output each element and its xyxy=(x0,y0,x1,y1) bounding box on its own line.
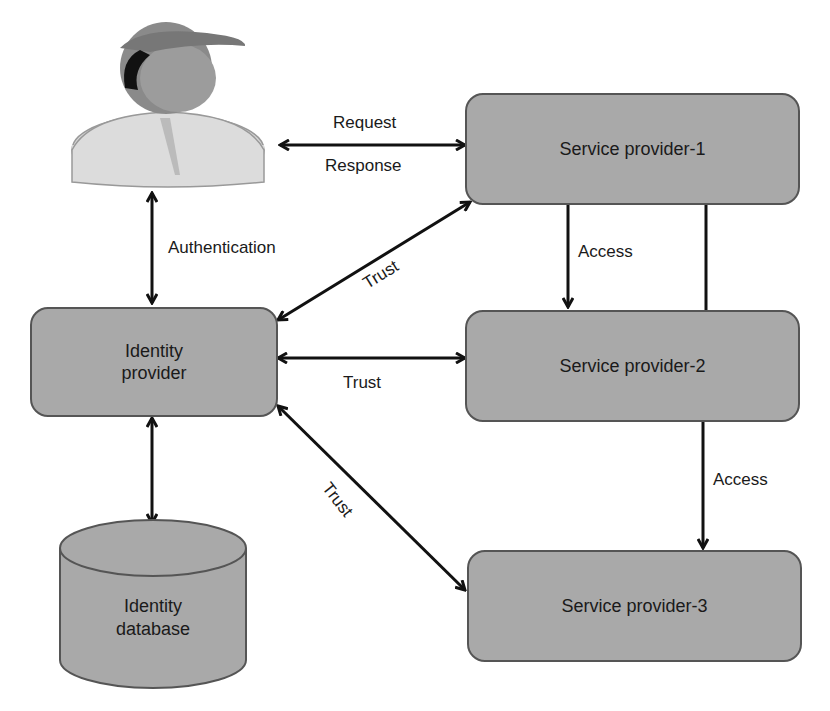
sp3-label: Service provider-3 xyxy=(561,595,707,618)
trust-sp2-label: Trust xyxy=(343,373,381,393)
identity-provider-node: Identity provider xyxy=(30,307,278,417)
access-sp2-sp3-label: Access xyxy=(713,470,768,490)
identity-provider-label-1: Identity xyxy=(121,340,186,363)
user-avatar-icon xyxy=(72,22,264,187)
access-sp1-sp2-label: Access xyxy=(578,242,633,262)
service-provider-3-node: Service provider-3 xyxy=(467,550,802,662)
sp1-label: Service provider-1 xyxy=(559,138,705,161)
request-label: Request xyxy=(333,113,396,133)
service-provider-2-node: Service provider-2 xyxy=(465,310,800,422)
service-provider-1-node: Service provider-1 xyxy=(465,93,800,205)
sp2-label: Service provider-2 xyxy=(559,355,705,378)
response-label: Response xyxy=(325,156,402,176)
identity-provider-label-2: provider xyxy=(121,362,186,385)
authentication-label: Authentication xyxy=(168,238,276,258)
identity-database-label: Identity database xyxy=(60,595,246,640)
